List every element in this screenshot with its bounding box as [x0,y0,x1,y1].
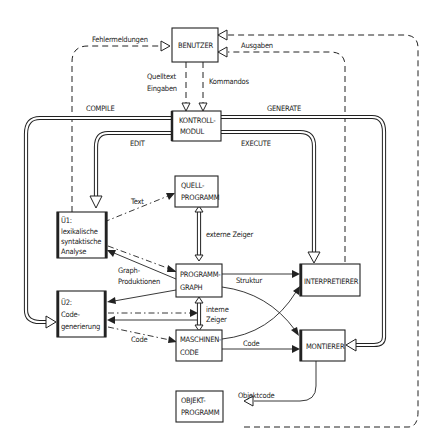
node-maschinencode: MASCHINEN- CODE [176,330,222,361]
arrow-head-icon [195,297,203,303]
svg-text:lexikalische: lexikalische [61,227,98,236]
arrow-head-icon [308,252,320,263]
svg-text:PROGRAMM-: PROGRAMM- [180,270,221,279]
svg-text:MODUL: MODUL [180,127,204,136]
edge-maschinencode-to-interpretierer [222,292,296,339]
svg-text:Analyse: Analyse [61,247,86,256]
label-ausgaben: Ausgaben [241,41,273,50]
svg-text:QUELL-: QUELL- [181,181,205,190]
label-zeiger: Zeiger [206,315,227,324]
label-interne: interne [206,305,229,314]
edge-graph-to-u2 [114,290,176,301]
label-eingaben: Eingaben [147,84,177,93]
svg-text:BENUTZER: BENUTZER [178,41,213,50]
arrow-head-icon [190,309,198,317]
label-code-u2: Code [131,335,148,344]
svg-text:PROGRAMM: PROGRAMM [181,408,220,417]
node-benutzer: BENUTZER [172,28,218,62]
svg-text:Ü2:: Ü2: [61,298,72,307]
label-objektcode: Objektcode [238,391,274,400]
svg-text:PROGRAMM: PROGRAMM [181,193,220,202]
node-interpretierer: INTERPRETIERER [300,264,360,296]
node-quellprogramm: QUELL- PROGRAMM [175,176,220,207]
label-kommandos: Kommandos [209,77,250,86]
edge-fehlermeldungen [72,46,160,212]
svg-text:Code-: Code- [61,310,80,319]
arrow-head-icon [161,41,170,51]
svg-text:MASCHINEN-: MASCHINEN- [180,335,222,344]
svg-text:Ü1:: Ü1: [61,216,72,225]
arrow-head-icon [182,103,190,111]
label-edit: EDIT [130,139,146,148]
label-execute: EXECUTE [241,139,271,148]
arrow-head-icon [346,339,356,351]
svg-text:OBJEKT-: OBJEKT- [181,396,206,405]
arrow-head-icon [218,30,227,40]
arrow-head-icon [46,316,56,328]
svg-text:syntaktische: syntaktische [61,237,101,246]
label-struktur: Struktur [236,276,262,285]
label-fehlermeldungen: Fehlermeldungen [92,35,148,44]
svg-text:CODE: CODE [180,348,199,357]
label-generate: GENERATE [267,104,301,113]
arrow-head-icon [90,196,102,208]
arrow-head-icon [195,255,203,261]
svg-text:generierung: generierung [61,322,100,331]
label-compile: COMPILE [86,104,115,113]
arrow-head-icon [107,316,115,324]
svg-text:KONTROLL-: KONTROLL- [179,116,216,125]
label-graph: Graph- [118,266,141,275]
node-u1-lexikalische-syntaktische-analyse: Ü1: lexikalische syntaktische Analyse [57,212,107,258]
arrow-head-icon [292,270,300,278]
arrow-head-icon [291,327,299,336]
svg-text:GRAPH: GRAPH [180,283,202,292]
label-code-montierer: Code [243,339,260,348]
node-u2-codegenerierung: Ü2: Code- generierung [57,291,106,337]
node-objektprogramm: OBJEKT- PROGRAMM [176,391,223,422]
arrow-head-icon [199,103,207,111]
node-kontrollmodul: KONTROLL- MODUL [172,111,221,141]
arrow-head-icon [292,345,300,353]
arrow-head-icon [293,286,300,295]
label-text: Text [130,197,144,206]
node-montierer: MONTIERER [300,330,345,361]
node-programmgraph: PROGRAMM- GRAPH [176,264,222,297]
arrow-head-icon [107,297,116,304]
svg-text:INTERPRETIERER: INTERPRETIERER [304,277,359,286]
label-produktionen: Produktionen [118,277,160,286]
arrow-head-icon [218,47,227,57]
label-externe-zeiger: externe Zeiger [206,230,254,239]
label-quelltext: Quelltext [147,72,177,81]
svg-text:MONTIERER: MONTIERER [306,342,345,351]
compiler-architecture-diagram: BENUTZER KONTROLL- MODUL QUELL- PROGRAMM… [0,0,437,445]
edge-ausgaben-outer [228,35,418,427]
